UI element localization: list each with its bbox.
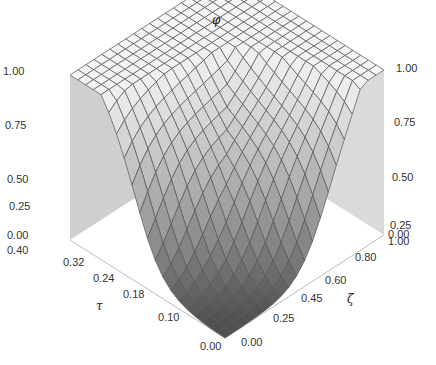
tau-tick: 0.32 (63, 257, 84, 268)
zeta-tick: 1.00 (388, 236, 409, 247)
z-tick-left: 0.00 (7, 230, 28, 241)
z-tick-left: 1.00 (3, 66, 24, 77)
z-tick-left: 0.50 (7, 174, 28, 185)
zeta-axis-label: ζ (347, 293, 354, 305)
zeta-tick: 0.80 (355, 252, 376, 263)
z-tick-left: 0.75 (5, 120, 26, 131)
surface-plot (0, 0, 436, 365)
z-tick-left: 0.25 (9, 201, 30, 212)
z-tick-right: 0.50 (392, 172, 413, 183)
tau-tick: 0.40 (7, 245, 28, 256)
z-tick-right: 0.75 (394, 117, 415, 128)
tau-tick: 0.24 (93, 273, 114, 284)
zeta-tick: 0.25 (273, 313, 294, 324)
tau-tick: 0.18 (123, 289, 144, 300)
z-tick-right: 1.00 (396, 63, 417, 74)
zeta-tick: 0.00 (241, 337, 262, 348)
tau-axis-label: τ (96, 300, 103, 312)
zeta-tick: 0.45 (301, 293, 322, 304)
phi-axis-label: φ (212, 14, 220, 26)
zeta-tick: 0.60 (325, 275, 346, 286)
tau-tick: 0.00 (200, 341, 221, 352)
tau-tick: 0.10 (158, 312, 179, 323)
